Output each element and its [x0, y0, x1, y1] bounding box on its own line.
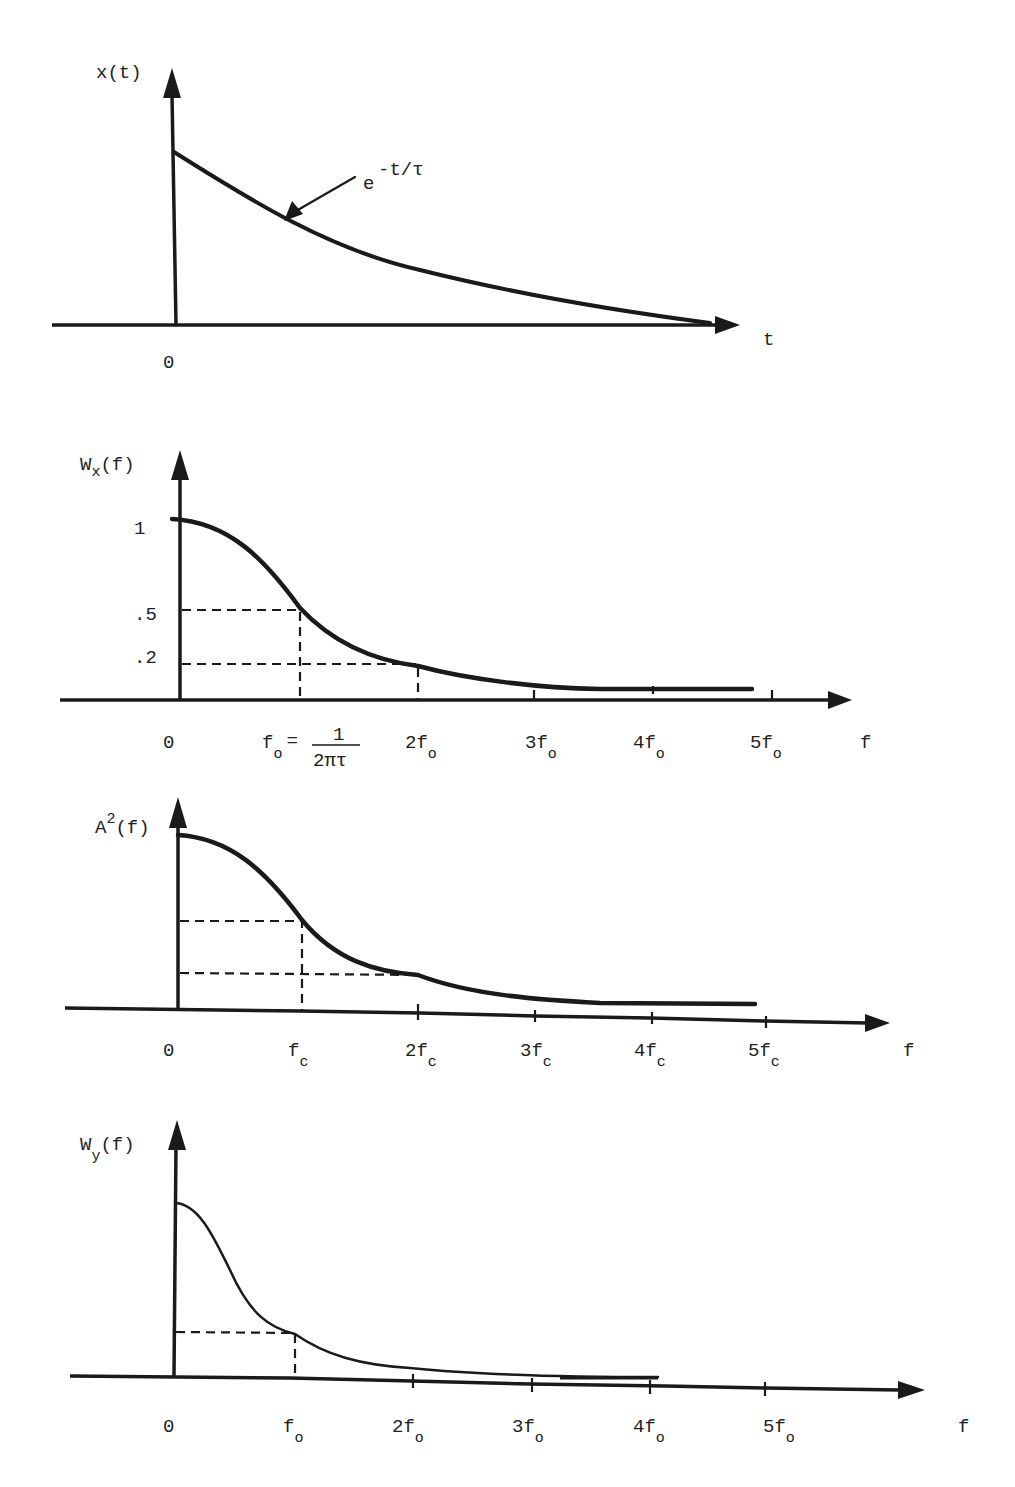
f-axis	[70, 1376, 900, 1390]
graph-a2-of-f: A2(f) 0 fc 2fc 3fc 4fc 5fc f	[65, 797, 914, 1071]
y-axis-label: Wx(f)	[80, 454, 135, 481]
tick-label-5f0: 5fo	[750, 732, 782, 763]
origin-label: 0	[163, 352, 174, 374]
origin-label: 0	[163, 1040, 174, 1062]
y-axis-label: x(t)	[96, 62, 142, 84]
graph-wy-of-f: Wy(f) 0 fo 2fo 3fo 4fo 5fo f	[70, 1120, 969, 1447]
exponential-curve	[174, 152, 710, 323]
t-axis-arrow-icon	[715, 316, 740, 334]
graph-x-of-t: x(t) t 0 e -t/τ	[52, 62, 774, 374]
f-axis-arrow-icon	[898, 1381, 925, 1399]
wy-axis-arrow-icon	[168, 1120, 186, 1150]
figure: x(t) t 0 e -t/τ Wx(f) 1 .5 .2 0 fo= 1 2π…	[0, 0, 1015, 1487]
f-axis-arrow-icon	[828, 691, 852, 709]
tick-label-3fc: 3fc	[520, 1040, 552, 1071]
tick-label-f0: fo	[283, 1416, 303, 1447]
y-axis-label: A2(f)	[95, 811, 150, 839]
wy-curve	[176, 1203, 658, 1377]
y-axis-label: Wy(f)	[80, 1134, 135, 1165]
graph-wx-of-f: Wx(f) 1 .5 .2 0 fo= 1 2πτ 2fo 3fo 4fo 5f…	[60, 450, 871, 772]
f0-numerator: 1	[333, 724, 344, 746]
y-tick-05: .5	[134, 604, 157, 626]
f0-label: fo=	[262, 730, 298, 763]
half-power-dashline	[180, 921, 302, 1010]
f-axis-arrow-icon	[865, 1014, 890, 1032]
annotation-arrow-icon	[284, 201, 303, 221]
x-axis-arrow-icon	[163, 68, 181, 98]
half-power-dashline	[182, 610, 300, 700]
tick-label-5f0: 5fo	[763, 1416, 795, 1447]
tick-label-fc: fc	[288, 1040, 308, 1071]
x-axis-label: f	[958, 1416, 969, 1438]
annotation-exponent: -t/τ	[378, 159, 424, 181]
wy-axis	[174, 1145, 176, 1376]
x-axis-label: f	[860, 732, 871, 754]
annotation-base: e	[363, 173, 374, 195]
half-power-dashline	[176, 1332, 295, 1377]
f-axis	[65, 1008, 868, 1023]
x-axis-label: t	[763, 329, 774, 351]
annotation-arrow-line	[296, 177, 355, 211]
a2-axis-arrow-icon	[169, 797, 187, 828]
f0-denominator: 2πτ	[313, 750, 347, 772]
tick-label-2fc: 2fc	[405, 1040, 437, 1071]
wx-axis-arrow-icon	[171, 450, 189, 480]
tick-label-2f0: 2fo	[392, 1416, 424, 1447]
tick-label-3f0: 3fo	[512, 1416, 544, 1447]
tick-label-4f0: 4fo	[633, 1416, 665, 1447]
tick-label-5fc: 5fc	[748, 1040, 780, 1071]
a2-curve	[178, 835, 755, 1004]
tick-label-4fc: 4fc	[634, 1040, 666, 1071]
x-axis-label: f	[903, 1040, 914, 1062]
y-tick-1: 1	[134, 518, 145, 540]
tick-label-2f0: 2fo	[405, 732, 437, 763]
x-axis	[172, 95, 176, 325]
point2-dashline	[180, 973, 418, 975]
y-tick-02: .2	[134, 647, 157, 669]
tick-label-3f0: 3fo	[525, 732, 557, 763]
origin-label: 0	[163, 732, 174, 754]
tick-label-4f0: 4fo	[633, 732, 665, 763]
origin-label: 0	[163, 1416, 174, 1438]
